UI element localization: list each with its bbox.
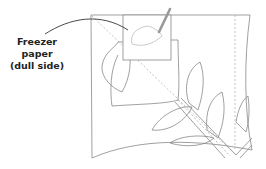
leaves bbox=[152, 62, 249, 146]
diagram-illustration bbox=[0, 0, 266, 169]
callout-leader-line bbox=[45, 19, 128, 34]
diagram-canvas: Freezer paper (dull side) bbox=[0, 0, 266, 169]
fabric-square bbox=[91, 15, 252, 158]
